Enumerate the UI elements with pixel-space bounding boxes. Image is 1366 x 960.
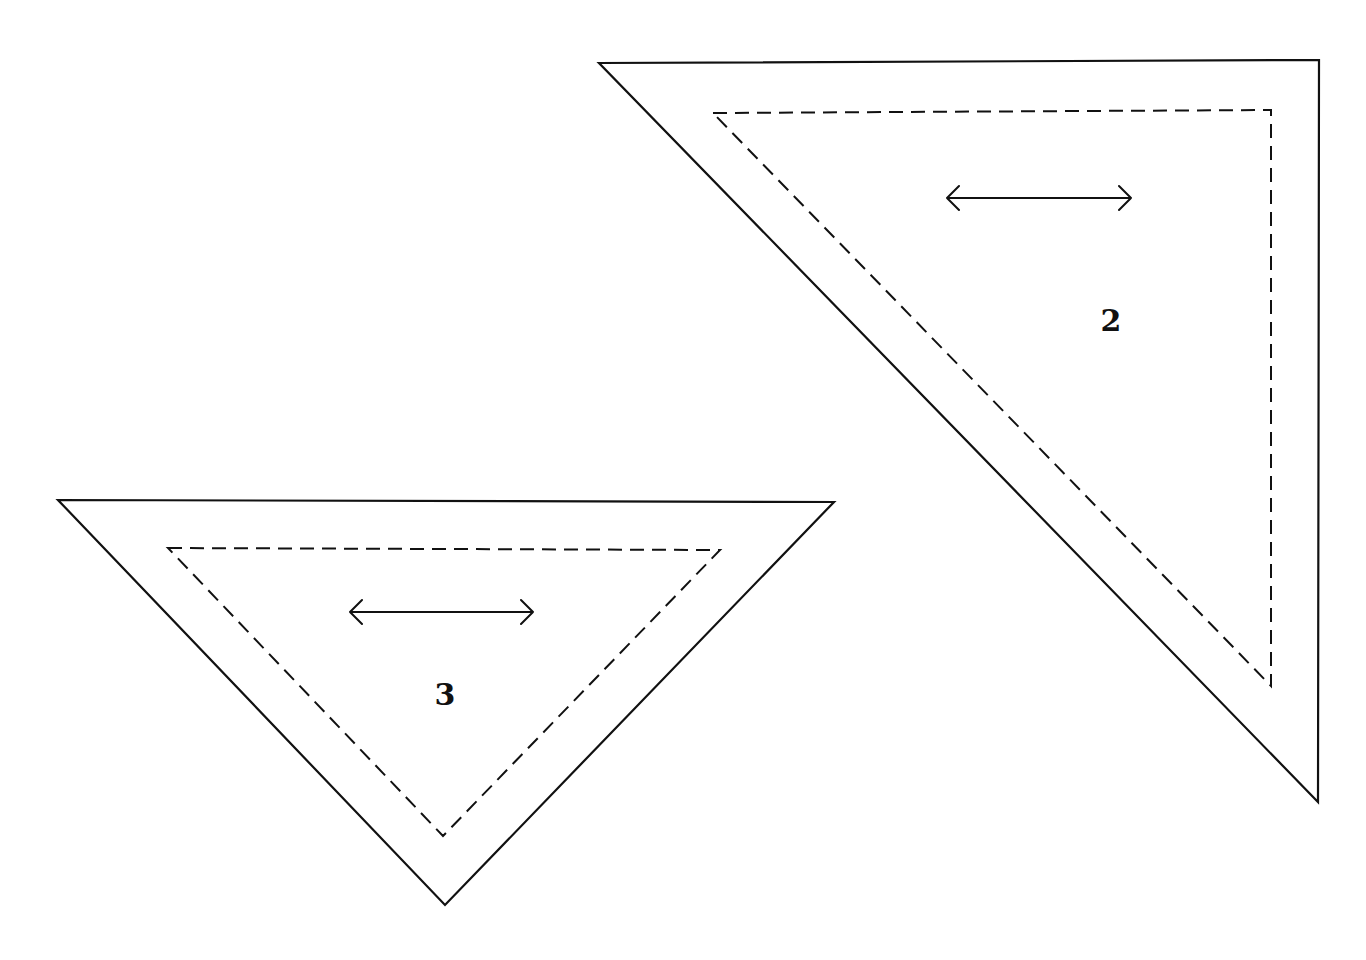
piece-2-seam-line xyxy=(713,110,1271,686)
piece-2-label: 2 xyxy=(1101,303,1122,338)
piece-2-grain-arrow-icon xyxy=(947,186,1131,210)
pattern-canvas: 2 3 xyxy=(0,0,1366,960)
piece-2-cutting-line xyxy=(599,60,1319,802)
piece-3-grain-arrow-icon xyxy=(350,600,533,624)
pattern-piece-3: 3 xyxy=(58,500,834,905)
piece-3-label: 3 xyxy=(435,677,456,712)
pattern-piece-2: 2 xyxy=(599,60,1319,802)
